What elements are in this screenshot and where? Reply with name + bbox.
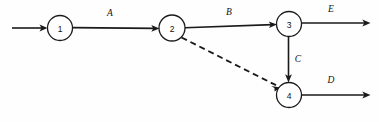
node-2-label: 2: [170, 24, 175, 34]
node-1-label: 1: [58, 24, 63, 34]
edge-d: D: [302, 75, 371, 98]
edge-b: B: [185, 7, 277, 28]
node-2[interactable]: 2: [159, 15, 185, 41]
node-1[interactable]: 1: [48, 16, 73, 41]
edge-a-label: A: [106, 8, 113, 18]
edge-e: E: [302, 4, 371, 26]
node-4-label: 4: [287, 91, 292, 101]
nodes-group: 1 2 3 4: [48, 12, 302, 108]
edge-e-label: E: [327, 4, 334, 14]
edge-b-label: B: [226, 7, 232, 17]
edge-dummy-dashed: [182, 38, 281, 92]
edge-start-to-1: [12, 25, 48, 32]
node-4[interactable]: 4: [277, 83, 302, 108]
edge-a: A: [73, 8, 160, 32]
network-diagram: A B E C: [0, 0, 379, 122]
node-3-label: 3: [287, 20, 292, 30]
node-3[interactable]: 3: [277, 12, 302, 37]
edge-b-line: [185, 25, 273, 28]
edge-dummy-line: [182, 38, 277, 86]
network-diagram-canvas: A B E C: [0, 0, 379, 122]
edge-d-label: D: [327, 75, 335, 85]
edge-a-line: [73, 28, 156, 29]
edge-c-label: C: [295, 54, 302, 64]
edge-c: C: [285, 37, 302, 83]
